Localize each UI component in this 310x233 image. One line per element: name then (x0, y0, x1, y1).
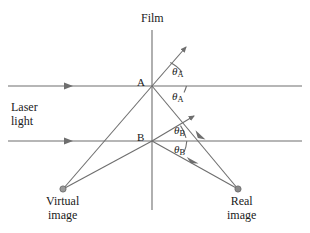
ray-virtual-to-b (63, 141, 152, 189)
laser-light-line2: light (11, 114, 33, 128)
theta-a-upper-label: θA (172, 65, 183, 79)
real-image-dot (235, 186, 241, 192)
theta-subscript: A (177, 95, 183, 104)
theta-subscript: A (177, 70, 183, 79)
real-image-line2: image (227, 208, 256, 222)
theta-a-lower-label: θA (172, 90, 183, 104)
laser-beam-upper-arrow (64, 83, 73, 90)
laser-light-label: Laser light (11, 101, 38, 129)
real-image-label: Real image (227, 195, 256, 223)
virtual-image-label: Virtual image (46, 195, 79, 223)
angle-arc-theta-a-lower (184, 86, 187, 92)
virtual-image-dot (60, 186, 66, 192)
theta-b-upper-label: θB (174, 124, 185, 138)
film-label: Film (141, 12, 164, 26)
point-b-label: B (137, 131, 144, 144)
ray-a-to-real-image (152, 86, 238, 189)
point-a-label: A (137, 76, 145, 89)
ray-b-to-real-image-arrow (187, 157, 199, 164)
theta-b-lower-label: θB (174, 143, 185, 157)
virtual-image-line1: Virtual (46, 194, 79, 208)
ray-a-to-real-image-arrow (196, 130, 206, 139)
ray-b-to-real-image (152, 141, 238, 189)
theta-subscript: B (179, 129, 185, 138)
real-image-line1: Real (231, 194, 253, 208)
virtual-image-line2: image (48, 208, 77, 222)
figure-canvas: Film A B Laser light Virtual image Real … (0, 0, 310, 233)
laser-beam-lower-arrow (64, 138, 73, 145)
laser-light-line1: Laser (11, 100, 38, 114)
theta-subscript: B (179, 148, 185, 157)
